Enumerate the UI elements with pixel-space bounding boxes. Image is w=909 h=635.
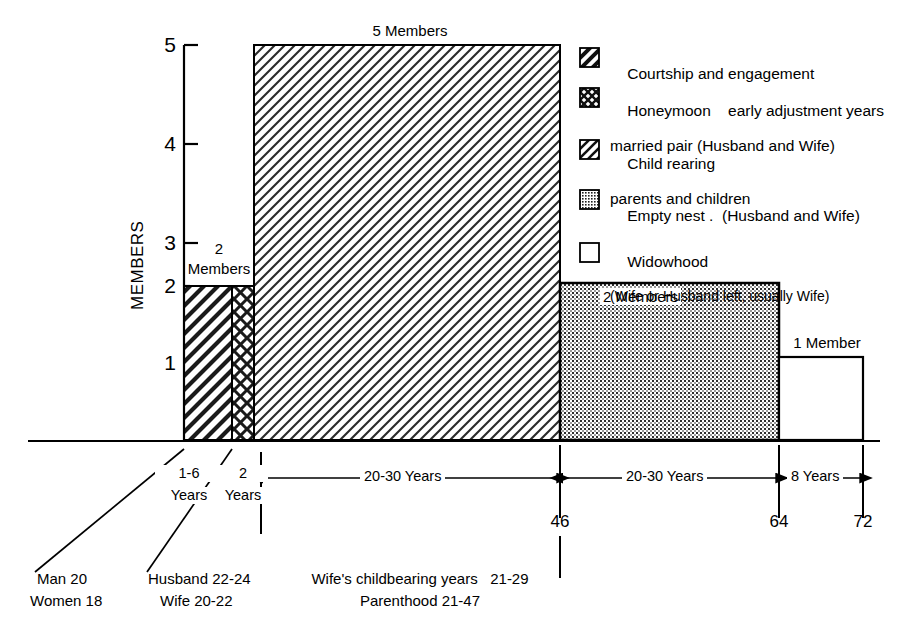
legend-swatch-honeymoon	[580, 88, 599, 107]
legend-label-widowhood-line2: (Wife or Husband left, usually Wife)	[610, 288, 829, 304]
bar-courtship	[184, 286, 232, 440]
legend-item-widowhood[interactable]: Widowhood (Wife or Husband left, usually…	[610, 235, 829, 340]
legend-label-child-rearing-line1: Child rearing	[627, 155, 715, 172]
span-label-child-rearing: 20-30 Years	[360, 468, 445, 485]
span-label-courtship-line2: Years	[155, 487, 223, 504]
family-life-cycle-chart: 5 4 3 2 1 MEMBERS 5 Members 2 Members 2 …	[0, 0, 909, 635]
legend-label-widowhood-line1: Widowhood	[627, 253, 708, 270]
y-axis-title: MEMBERS	[128, 221, 148, 310]
span-label-widowhood: 8 Years	[787, 468, 843, 485]
span-label-empty-nest: 20-30 Years	[622, 468, 707, 485]
bar-widowhood	[779, 357, 863, 440]
note-parenthood-years: Parenthood 21-47	[280, 592, 560, 609]
legend-label-honeymoon-line1: Honeymoon early adjustment years	[627, 102, 884, 119]
note-women-age: Women 18	[30, 592, 102, 609]
bar-label-pair-members: Members	[183, 260, 255, 277]
span-label-honeymoon-line2: Years	[214, 487, 272, 504]
age-marker-72: 72	[843, 512, 883, 532]
bar-child-rearing	[254, 45, 560, 440]
legend-label-empty-nest-line1: Empty nest . (Husband and Wife)	[627, 207, 860, 224]
note-husband-age: Husband 22-24	[148, 570, 251, 587]
legend-swatch-empty-nest	[580, 190, 599, 209]
legend-swatch-courtship	[580, 48, 599, 67]
y-tick-label-4: 4	[150, 132, 176, 156]
note-childbearing-years: Wife's childbearing years 21-29	[280, 570, 560, 587]
bar-label-pair-count: 2	[183, 240, 255, 257]
y-tick-label-5: 5	[150, 33, 176, 57]
legend-swatch-child-rearing	[580, 140, 599, 159]
age-marker-64: 64	[759, 512, 799, 532]
note-man-age: Man 20	[37, 570, 87, 587]
span-label-honeymoon-line1: 2	[218, 465, 268, 482]
y-tick-label-1: 1	[150, 351, 176, 375]
legend-label-courtship-line1: Courtship and engagement	[627, 65, 814, 82]
y-tick-label-2: 2	[150, 274, 176, 298]
span-label-courtship-line1: 1-6	[155, 465, 223, 482]
age-marker-46: 46	[540, 512, 580, 532]
y-tick-label-3: 3	[150, 231, 176, 255]
bar-label-child-rearing: 5 Members	[330, 22, 490, 39]
note-wife-age: Wife 20-22	[160, 592, 233, 609]
legend-swatch-widowhood	[580, 243, 599, 262]
bar-honeymoon	[232, 286, 254, 440]
